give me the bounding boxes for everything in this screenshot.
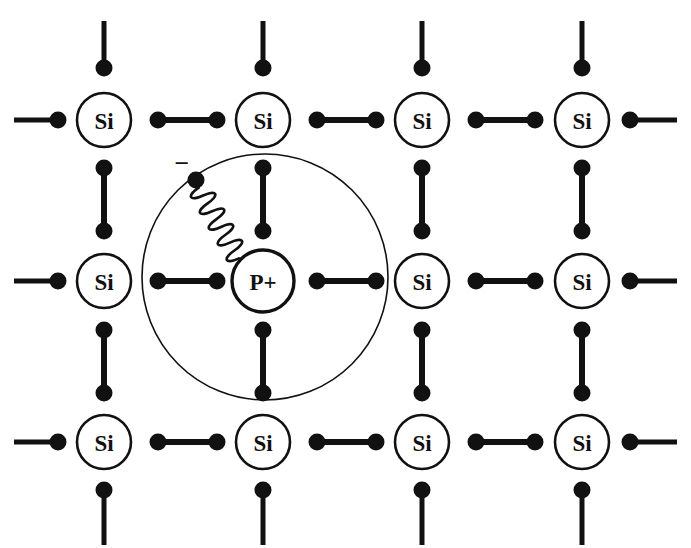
stem-top-c2-dot bbox=[255, 60, 272, 77]
stem-bottom-c1-dot bbox=[96, 482, 113, 499]
bond-v-c3-r2r3-dot-bottom bbox=[414, 385, 431, 402]
si-label-si-r2c3: Si bbox=[412, 270, 432, 295]
si-label-si-r1c3: Si bbox=[412, 109, 432, 134]
atom-si-r2c1: Si bbox=[77, 254, 131, 308]
si-label-si-r1c1: Si bbox=[94, 109, 114, 134]
stem-left-r3-dot bbox=[50, 434, 67, 451]
si-label-si-r1c2: Si bbox=[253, 109, 273, 134]
bond-h-r2-c1c2-dot-right bbox=[209, 273, 226, 290]
bond-h-r2-c2c3-dot-right bbox=[368, 273, 385, 290]
bond-h-r3-c2c3-dot-right bbox=[368, 434, 385, 451]
stem-bottom-c4-dot bbox=[574, 482, 591, 499]
atom-si-r3c1: Si bbox=[77, 415, 131, 469]
bond-v-c4-r2r3-dot-top bbox=[574, 322, 591, 339]
bond-h-r2-c3c4-dot-right bbox=[527, 273, 544, 290]
stem-left-r1-dot bbox=[50, 112, 67, 129]
loosely-bound-electron-dot bbox=[188, 172, 205, 189]
stem-right-r1-dot bbox=[622, 112, 639, 129]
bond-h-r1-c1c2-dot-right bbox=[209, 112, 226, 129]
stem-bottom-c2-dot bbox=[255, 482, 272, 499]
bond-v-c2-r2r3-dot-top bbox=[255, 322, 272, 339]
atom-si-r3c3: Si bbox=[395, 415, 449, 469]
bond-h-r1-c2c3-dot-left bbox=[309, 112, 326, 129]
bond-v-c1-r2r3-dot-bottom bbox=[96, 385, 113, 402]
bond-h-r3-c1c2-dot-left bbox=[150, 434, 167, 451]
bond-v-c1-r2r3-dot-top bbox=[96, 322, 113, 339]
dopant-label-p-r2c2: P+ bbox=[249, 270, 276, 295]
atom-si-r1c1: Si bbox=[77, 93, 131, 147]
si-label-si-r3c2: Si bbox=[253, 431, 273, 456]
bond-h-r3-c1c2-dot-right bbox=[209, 434, 226, 451]
bond-v-c1-r1r2-dot-top bbox=[96, 160, 113, 177]
bond-h-r3-c3c4-dot-left bbox=[468, 434, 485, 451]
si-label-si-r3c1: Si bbox=[94, 431, 114, 456]
stem-right-r3-dot bbox=[622, 434, 639, 451]
bond-v-c2-r2r3-dot-bottom bbox=[255, 385, 272, 402]
si-label-si-r2c4: Si bbox=[572, 270, 592, 295]
bond-v-c2-r1r2-dot-top bbox=[255, 160, 272, 177]
stem-top-c1-dot bbox=[96, 60, 113, 77]
lattice-canvas: SiSiSiSiSiP+SiSiSiSiSiSi − bbox=[0, 0, 691, 548]
stem-top-c3-dot bbox=[414, 60, 431, 77]
atom-si-r1c2: Si bbox=[236, 93, 290, 147]
bond-v-c4-r1r2-dot-top bbox=[574, 160, 591, 177]
bond-v-c2-r1r2-dot-bottom bbox=[255, 223, 272, 240]
si-label-si-r1c4: Si bbox=[572, 109, 592, 134]
atom-si-r2c4: Si bbox=[555, 254, 609, 308]
bond-v-c1-r1r2-dot-bottom bbox=[96, 223, 113, 240]
atom-si-r3c4: Si bbox=[555, 415, 609, 469]
negative-charge-label: − bbox=[175, 149, 190, 178]
si-label-si-r3c4: Si bbox=[572, 431, 592, 456]
stem-bottom-c3-dot bbox=[414, 482, 431, 499]
bond-v-c4-r1r2-dot-bottom bbox=[574, 223, 591, 240]
stem-left-r2-dot bbox=[50, 273, 67, 290]
bond-h-r2-c2c3-dot-left bbox=[309, 273, 326, 290]
atom-si-r2c3: Si bbox=[395, 254, 449, 308]
bond-v-c4-r2r3-dot-bottom bbox=[574, 385, 591, 402]
atom-p-r2c2: P+ bbox=[232, 250, 294, 312]
bond-h-r1-c3c4-dot-left bbox=[468, 112, 485, 129]
bond-h-r2-c1c2-dot-left bbox=[150, 273, 167, 290]
atom-si-r1c4: Si bbox=[555, 93, 609, 147]
atom-si-r3c2: Si bbox=[236, 415, 290, 469]
si-label-si-r2c1: Si bbox=[94, 270, 114, 295]
bond-v-c3-r1r2-dot-bottom bbox=[414, 223, 431, 240]
bond-h-r2-c3c4-dot-left bbox=[468, 273, 485, 290]
bond-h-r1-c1c2-dot-left bbox=[150, 112, 167, 129]
stem-top-c4-dot bbox=[574, 60, 591, 77]
stem-right-r2-dot bbox=[622, 273, 639, 290]
bond-h-r3-c2c3-dot-left bbox=[309, 434, 326, 451]
bond-h-r1-c2c3-dot-right bbox=[368, 112, 385, 129]
bond-h-r1-c3c4-dot-right bbox=[527, 112, 544, 129]
bond-h-r3-c3c4-dot-right bbox=[527, 434, 544, 451]
lattice-diagram-root: SiSiSiSiSiP+SiSiSiSiSiSi − bbox=[0, 0, 691, 548]
bond-v-c3-r1r2-dot-top bbox=[414, 160, 431, 177]
atom-si-r1c3: Si bbox=[395, 93, 449, 147]
si-label-si-r3c3: Si bbox=[412, 431, 432, 456]
bond-v-c3-r2r3-dot-top bbox=[414, 322, 431, 339]
